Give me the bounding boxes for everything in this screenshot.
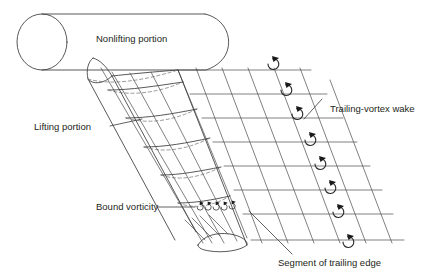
aerodynamics-figure: Nonlifting portion Lifting portion Bound… [0, 0, 433, 280]
wake-vortex-symbol [325, 180, 336, 193]
wake-vortex-symbol [281, 82, 292, 95]
label-lifting-portion: Lifting portion [34, 121, 91, 132]
wing-tip-airfoil [198, 233, 247, 251]
wake-slant-line-5 [300, 68, 366, 243]
bound-vorticity-mark [213, 202, 220, 211]
leader-lines [110, 99, 322, 254]
wing-span-line-3 [130, 73, 224, 243]
wing-tip-rib-1 [185, 220, 205, 240]
label-nonlifting-portion: Nonlifting portion [96, 33, 167, 44]
label-trailing-vortex-wake: Trailing-vortex wake [330, 103, 415, 114]
wake-vortex-symbol [315, 156, 326, 169]
wake-vortex-symbol [268, 56, 279, 69]
wing-chord-curve-5 [178, 196, 230, 203]
leader-segment-of-trailing-edge [249, 211, 292, 254]
wake-vortex-symbol [305, 132, 316, 145]
cylinder-tail-arc [197, 14, 229, 70]
label-segment-of-trailing-edge: Segment of trailing edge [278, 257, 381, 268]
wake-vortex-symbol [333, 204, 344, 217]
bound-vorticity-mark [197, 202, 204, 211]
figure-canvas: Nonlifting portion Lifting portion Bound… [0, 0, 433, 280]
cylinder-nose-ellipse [17, 14, 67, 70]
bound-vorticity-mark [221, 202, 228, 211]
wing-span-line-4 [151, 72, 237, 241]
wing-tip-rib-3 [200, 216, 220, 236]
wing-root-chord-hidden [88, 70, 178, 82]
bound-vorticity-mark [205, 202, 212, 211]
wing-tip-rib-2 [192, 218, 212, 238]
wake-vortex-symbol [343, 234, 354, 247]
lifting-surface [87, 58, 247, 252]
wake-vortex-symbol [292, 106, 303, 119]
wing-chord-curve-3 [144, 138, 210, 147]
label-bound-vorticity: Bound vorticity [96, 201, 159, 212]
wing-span-line-2 [112, 72, 212, 243]
